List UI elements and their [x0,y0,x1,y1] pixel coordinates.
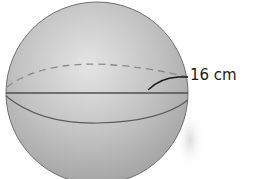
diameter-label: 16 cm [190,66,237,84]
sphere-diagram [0,0,255,179]
sphere-body [6,2,188,179]
